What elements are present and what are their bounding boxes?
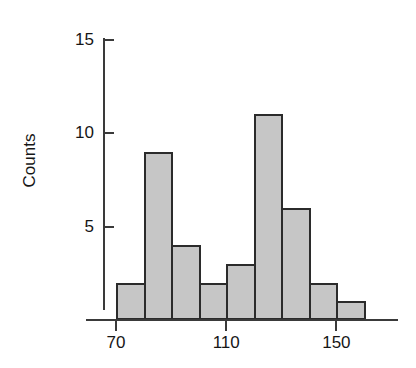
histogram-bar — [199, 283, 229, 320]
histogram-bar — [254, 114, 284, 320]
x-tick-label: 150 — [306, 334, 366, 352]
x-tick-label: 70 — [86, 334, 146, 352]
histogram-bar — [144, 152, 174, 320]
histogram-bar — [226, 264, 256, 320]
histogram-bar — [281, 208, 311, 320]
histogram-bar — [171, 245, 201, 320]
histogram-bar — [116, 283, 146, 320]
x-tick-mark — [115, 321, 117, 331]
histogram-bar — [309, 283, 339, 320]
plot-area — [0, 0, 416, 368]
x-tick-mark — [225, 321, 227, 331]
x-axis-line — [86, 319, 398, 321]
x-tick-label: 110 — [196, 334, 256, 352]
histogram-figure: Counts 15105 70110150 — [0, 0, 416, 368]
x-tick-mark — [335, 321, 337, 331]
histogram-bar — [336, 301, 366, 320]
